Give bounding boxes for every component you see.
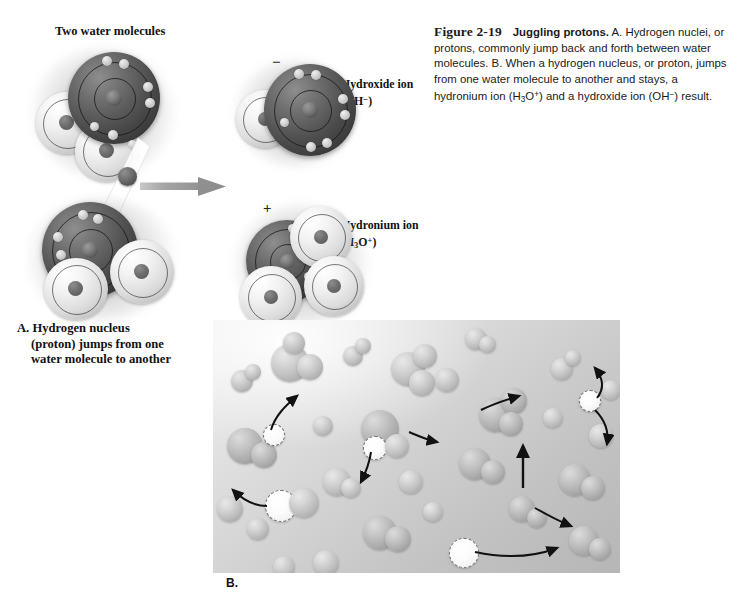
reaction-arrow-icon xyxy=(140,176,226,196)
figure-lead: Juggling protons. xyxy=(513,26,609,38)
oxygen-nucleus xyxy=(82,242,98,258)
panel-a-line-3: water molecule to another xyxy=(17,352,227,368)
panel-b-water-network-image xyxy=(213,320,620,573)
electron-bead xyxy=(56,250,66,260)
electron-bead xyxy=(90,122,99,131)
electron-bead xyxy=(143,82,153,92)
electron-bead xyxy=(93,214,103,224)
label-panel-a-caption: A. Hydrogen nucleus (proton) jumps from … xyxy=(17,321,227,368)
electron-bead xyxy=(102,56,112,66)
electron-bead xyxy=(338,94,348,104)
figure-caption: Figure 2-19Juggling protons. A. Hydrogen… xyxy=(434,24,734,108)
label-panel-b: B. xyxy=(226,576,238,590)
hydrogen-right-nucleus xyxy=(327,279,341,293)
arrow-right-bottom xyxy=(535,508,571,526)
molecule-water-bottom-left xyxy=(22,196,182,322)
electron-bead xyxy=(280,118,289,127)
oxygen-nucleus xyxy=(106,90,122,106)
label-two-water-molecules: Two water molecules xyxy=(55,24,165,39)
electron-bead xyxy=(53,232,63,242)
arrow-up-left xyxy=(271,396,297,430)
arrow-right-upper xyxy=(481,396,519,410)
arrow-down xyxy=(361,452,371,482)
electron-bead xyxy=(322,138,332,148)
oxygen-nucleus xyxy=(280,254,295,269)
panel-a-line-1: A. Hydrogen nucleus xyxy=(17,321,130,335)
electron-bead xyxy=(311,70,321,80)
hydrogen-bottom-left-nucleus xyxy=(264,290,278,304)
arrow-right-mid xyxy=(409,432,437,442)
panel-a-line-2: (proton) jumps from one xyxy=(17,337,227,353)
molecule-hydronium-ion xyxy=(232,202,372,330)
proton-transfer-arrows xyxy=(213,320,620,573)
molecule-hydroxide-ion xyxy=(232,58,362,168)
arrow-left xyxy=(233,490,267,506)
arrow-down-right xyxy=(595,410,608,444)
oxygen-nucleus xyxy=(302,102,318,118)
arrow-up-right xyxy=(595,368,602,398)
electron-bead xyxy=(340,110,350,120)
electron-bead xyxy=(306,142,316,152)
electron-bead xyxy=(78,210,88,220)
electron-bead xyxy=(294,69,304,79)
hydrogen-top-right-nucleus xyxy=(314,230,328,244)
figure-number: Figure 2-19 xyxy=(434,24,502,39)
electron-bead xyxy=(145,98,155,108)
jumping-proton xyxy=(118,167,137,186)
electron-bead xyxy=(119,59,129,69)
hydrogen-right-nucleus xyxy=(134,264,149,279)
hydrogen-bottom-left-nucleus xyxy=(68,281,83,296)
arrow-right-lower xyxy=(475,548,557,556)
